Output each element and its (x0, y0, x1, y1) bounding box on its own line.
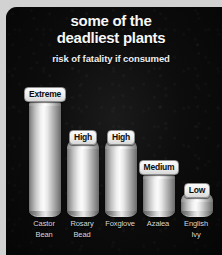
x-axis-label-line-1: English (176, 219, 216, 230)
poster-heading-block: some of the deadliest plants risk of fat… (0, 12, 222, 64)
bar-slot-foxglove: High (105, 130, 137, 217)
infographic-poster: some of the deadliest plants risk of fat… (0, 0, 222, 255)
x-axis-label-line-1: Azalea (138, 219, 178, 230)
bar-slot-english-ivy: Low (181, 183, 213, 217)
bar-value-label-english-ivy: Low (184, 183, 210, 198)
bar-bottom-cap (29, 211, 61, 217)
bar-value-label-azalea: Medium (139, 160, 180, 175)
bar-slot-azalea: Medium (143, 160, 175, 217)
page-title-line-2: deadliest plants (0, 29, 222, 46)
page-title-line-1: some of the (0, 12, 222, 29)
x-axis-label-rosary-bead: Rosary Bead (62, 219, 102, 240)
bar-slot-rosary-bead: High (67, 130, 99, 217)
x-axis-label-foxglove: Foxglove (100, 219, 140, 230)
bar-value-label-castor-bean: Extreme (24, 87, 66, 102)
bar-rosary-bead (67, 140, 99, 217)
x-axis-label-line-2: Ivy (176, 230, 216, 241)
x-axis-label-english-ivy: English Ivy (176, 219, 216, 240)
bar-bottom-cap (143, 211, 175, 217)
x-axis-label-castor-bean: Castor Bean (24, 219, 64, 240)
x-axis-labels: Castor Bean Rosary Bead Foxglove Azalea … (26, 219, 216, 253)
chart-plot-area: Extreme High High (26, 85, 216, 217)
bar-azalea (143, 170, 175, 217)
bar-value-label-foxglove: High (107, 130, 135, 145)
bar-bottom-cap (105, 211, 137, 217)
x-axis-label-line-2: Bead (62, 230, 102, 241)
x-axis-label-azalea: Azalea (138, 219, 178, 230)
x-axis-label-line-1: Foxglove (100, 219, 140, 230)
x-axis-label-line-2: Bean (24, 230, 64, 241)
bar-bottom-cap (67, 211, 99, 217)
bar-value-label-rosary-bead: High (69, 130, 97, 145)
x-axis-label-line-1: Rosary (62, 219, 102, 230)
bar-bottom-cap (181, 211, 213, 217)
bar-slot-castor-bean: Extreme (29, 87, 61, 217)
bar-foxglove (105, 140, 137, 217)
x-axis-label-line-1: Castor (24, 219, 64, 230)
page-subtitle: risk of fatality if consumed (0, 53, 222, 64)
bar-castor-bean (29, 97, 61, 217)
